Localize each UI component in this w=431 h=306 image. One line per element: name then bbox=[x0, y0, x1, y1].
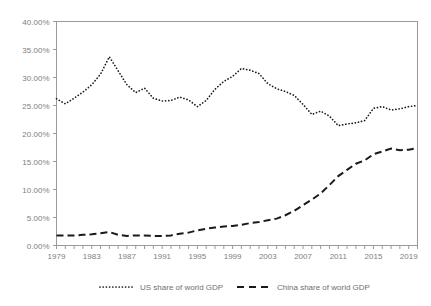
x-axis-tick-label: 1999 bbox=[224, 252, 242, 261]
gdp-share-line-chart: 40.00%35.00%30.00%25.00%20.00%15.00%10.0… bbox=[0, 0, 431, 306]
y-axis-tick-label: 20.00% bbox=[22, 130, 49, 139]
y-axis-tick-label: 35.00% bbox=[22, 46, 49, 55]
x-axis-tick-label: 1991 bbox=[153, 252, 171, 261]
y-axis-tick-label: 10.00% bbox=[22, 186, 49, 195]
x-axis-tick-label: 2011 bbox=[330, 252, 348, 261]
legend-item-label: China share of world GDP bbox=[277, 283, 370, 292]
y-axis-tick-label: 15.00% bbox=[22, 158, 49, 167]
y-axis-tick-label: 25.00% bbox=[22, 102, 49, 111]
y-axis-tick-labels: 40.00%35.00%30.00%25.00%20.00%15.00%10.0… bbox=[22, 18, 49, 251]
y-axis-tick-label: 0.00% bbox=[27, 242, 50, 251]
y-axis-tick-label: 40.00% bbox=[22, 18, 49, 27]
x-axis-tick-label: 2015 bbox=[365, 252, 383, 261]
legend-item-label: US share of world GDP bbox=[140, 283, 223, 292]
x-axis-tick-label: 2019 bbox=[400, 252, 418, 261]
x-axis-tick-label: 1983 bbox=[83, 252, 101, 261]
y-axis-tick-label: 5.00% bbox=[27, 214, 50, 223]
y-axis-tick-label: 30.00% bbox=[22, 74, 49, 83]
x-axis-tick-label: 1995 bbox=[188, 252, 206, 261]
x-axis-tick-label: 2007 bbox=[294, 252, 312, 261]
x-axis-tick-label: 1979 bbox=[48, 252, 66, 261]
x-axis-tick-label: 2003 bbox=[259, 252, 277, 261]
chart-container: 40.00%35.00%30.00%25.00%20.00%15.00%10.0… bbox=[0, 0, 431, 306]
x-axis-tick-label: 1987 bbox=[118, 252, 136, 261]
